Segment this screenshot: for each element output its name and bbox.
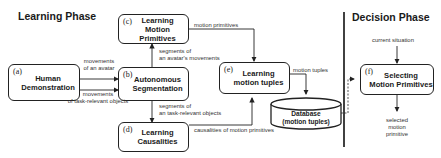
box-learning-causalities: (d) LearningCausalities [118, 122, 189, 152]
label-motion-tuples: motion tuples [293, 67, 328, 74]
label-selected-motion-primitive: selectedmotionprimitive [378, 117, 416, 138]
box-tag: (a) [13, 67, 22, 76]
database-cylinder: Database(motion tuples) [271, 110, 341, 126]
label-avatar-movements: movementsof an avatar [80, 58, 118, 72]
box-learning-motion-tuples: (e) Learningmotion tuples [219, 62, 290, 94]
label-current-situation: current situation [372, 37, 414, 44]
box-tag: (b) [123, 70, 132, 79]
label-avatar-segments: segments ofan avatar's movements [159, 48, 220, 62]
box-tag: (e) [224, 65, 233, 74]
label-causalities: causalities of motion primitives [194, 127, 274, 134]
label-object-movements: movementsof task-relevant objects [60, 91, 136, 105]
box-tag: (c) [123, 17, 132, 26]
box-selecting-motion-primitives: (f) SelectingMotion Primitives [360, 64, 434, 95]
box-tag: (f) [365, 67, 373, 76]
decision-phase-title: Decision Phase [352, 11, 430, 23]
learning-phase-title: Learning Phase [18, 10, 96, 22]
box-learning-motion-primitives: (c) LearningMotion Primitives [118, 14, 189, 44]
label-object-segments: segments ofan task-relevant objects [159, 103, 221, 117]
label-motion-primitives: motion primitives [194, 22, 238, 29]
box-tag: (d) [123, 125, 132, 134]
